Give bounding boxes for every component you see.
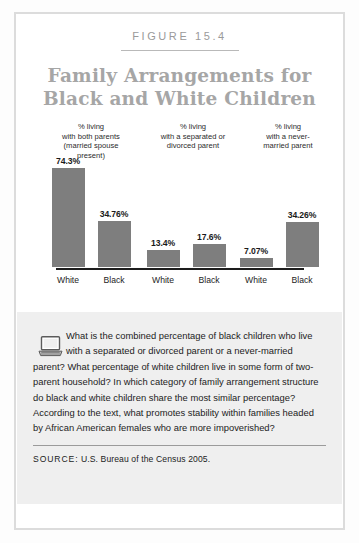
laptop-icon <box>38 336 63 357</box>
bar-value-label: 17.6% <box>181 232 237 242</box>
source-label: SOURCE: <box>33 454 78 464</box>
bar <box>193 244 226 268</box>
source-line: SOURCE: U.S. Bureau of the Census 2005. <box>33 454 326 464</box>
bar-value-label: 74.3% <box>40 156 96 166</box>
source-divider <box>33 445 326 446</box>
bar-value-label: 7.07% <box>228 246 284 256</box>
bar-value-label: 34.26% <box>274 210 330 220</box>
figure-header: FIGURE 15.4 Family Arrangements for Blac… <box>16 14 343 110</box>
question-text: What is the combined percentage of black… <box>33 328 326 436</box>
bar-category-label: Black <box>274 275 330 285</box>
bar-value-label: 34.76% <box>86 209 142 219</box>
figure-frame: FIGURE 15.4 Family Arrangements for Blac… <box>14 12 345 530</box>
bar <box>147 250 180 268</box>
bar-chart: % livingwith both parents(married spouse… <box>16 122 343 312</box>
figure-title-line-2: Black and White Children <box>35 87 325 110</box>
source-text: U.S. Bureau of the Census 2005. <box>81 454 210 464</box>
figure-page: FIGURE 15.4 Family Arrangements for Blac… <box>0 0 359 543</box>
header-divider <box>121 50 239 51</box>
chart-axis-line <box>56 268 304 270</box>
figure-title: Family Arrangements for Black and White … <box>35 64 325 110</box>
question-panel: What is the combined percentage of black… <box>17 312 342 504</box>
bar <box>52 168 85 267</box>
question-body: What is the combined percentage of black… <box>33 330 319 433</box>
bar <box>240 258 273 267</box>
bar <box>98 221 131 267</box>
bar <box>286 222 319 268</box>
figure-title-line-1: Family Arrangements for <box>35 64 325 87</box>
bar-category-label: Black <box>86 275 142 285</box>
figure-number-label: FIGURE 15.4 <box>16 30 343 42</box>
chart-plot-area: 74.3% White 34.76% Black 13.4% White 17.… <box>16 122 343 312</box>
